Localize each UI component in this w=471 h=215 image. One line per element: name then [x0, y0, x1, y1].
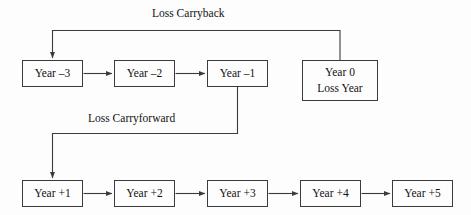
node-label-line1: Year +2	[126, 186, 162, 201]
node-label-line1: Year +5	[404, 186, 440, 201]
node-year-plus-1[interactable]: Year +1	[22, 180, 83, 207]
loss-carryforward-label: Loss Carryforward	[88, 112, 175, 124]
node-label-line2: Loss Year	[317, 81, 362, 96]
node-year-0-loss-year[interactable]: Year 0 Loss Year	[302, 60, 378, 101]
node-year-plus-5[interactable]: Year +5	[392, 180, 453, 207]
node-label-line1: Year –2	[127, 66, 163, 81]
carryforward-path	[53, 87, 238, 178]
node-label-line1: Year 0	[325, 65, 355, 80]
node-year-minus-1[interactable]: Year –1	[207, 60, 268, 87]
node-year-minus-3[interactable]: Year –3	[22, 60, 83, 87]
node-year-minus-2[interactable]: Year –2	[114, 60, 175, 87]
loss-carryback-label: Loss Carryback	[152, 7, 225, 19]
node-label-line1: Year +1	[34, 186, 70, 201]
node-year-plus-2[interactable]: Year +2	[114, 180, 175, 207]
node-year-plus-4[interactable]: Year +4	[300, 180, 361, 207]
node-label-line1: Year +4	[312, 186, 348, 201]
node-label-line1: Year –3	[35, 66, 71, 81]
flow-diagram: Year –3 Year –2 Year –1 Year 0 Loss Year…	[0, 0, 471, 215]
node-label-line1: Year +3	[219, 186, 255, 201]
node-year-plus-3[interactable]: Year +3	[207, 180, 268, 207]
node-label-line1: Year –1	[220, 66, 256, 81]
carryback-path	[53, 31, 341, 61]
